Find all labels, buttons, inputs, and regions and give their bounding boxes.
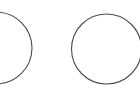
figure-svg <box>0 0 140 96</box>
drawing-canvas <box>0 0 140 96</box>
